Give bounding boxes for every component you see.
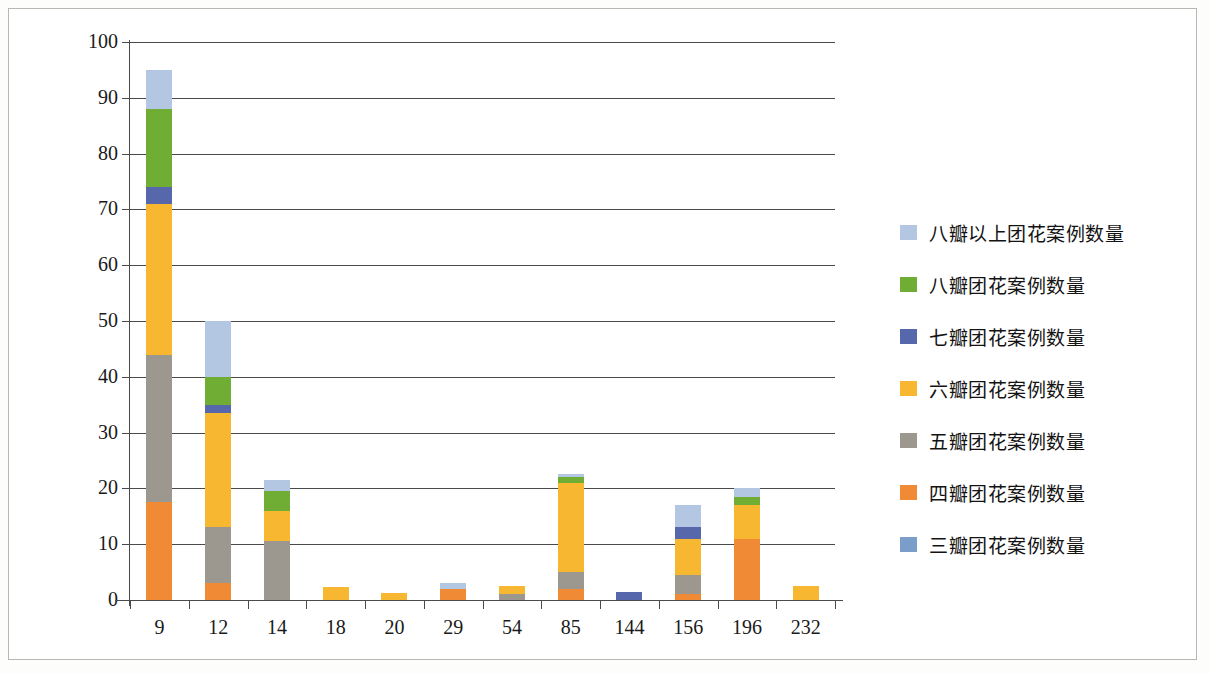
legend-item[interactable]: 四瓣团花案例数量	[900, 466, 1180, 518]
stacked-bar[interactable]	[793, 586, 819, 600]
y-axis-tick-label: 100	[58, 31, 118, 51]
bar-segment	[323, 587, 349, 600]
bar-segment	[146, 70, 172, 109]
stacked-bar[interactable]	[264, 480, 290, 600]
bar-segment	[675, 575, 701, 595]
bar-segment	[146, 355, 172, 503]
bar-segment	[734, 488, 760, 496]
x-axis-tick	[776, 600, 777, 609]
legend-item[interactable]: 六瓣团花案例数量	[900, 362, 1180, 414]
bar-segment	[264, 491, 290, 511]
stacked-bar[interactable]	[734, 488, 760, 600]
legend-swatch-icon	[900, 433, 917, 448]
bar-segment	[558, 589, 584, 600]
bar-segment	[264, 541, 290, 600]
bar-segment	[440, 589, 466, 600]
stacked-bar[interactable]	[381, 593, 407, 600]
x-axis-tick-label: 9	[130, 617, 189, 637]
x-axis-tick-label: 156	[659, 617, 718, 637]
stacked-bar[interactable]	[146, 70, 172, 600]
bar-segment	[146, 502, 172, 600]
chart-legend: 八瓣以上团花案例数量八瓣团花案例数量七瓣团花案例数量六瓣团花案例数量五瓣团花案例…	[900, 206, 1180, 570]
legend-item[interactable]: 七瓣团花案例数量	[900, 310, 1180, 362]
bar-group	[659, 42, 718, 600]
bar-group	[248, 42, 307, 600]
y-axis-tick-label: 90	[58, 87, 118, 107]
y-axis-tick	[122, 433, 130, 434]
bar-segment	[793, 586, 819, 600]
legend-item[interactable]: 八瓣团花案例数量	[900, 258, 1180, 310]
chart-page: 0102030405060708090100 91214182029548514…	[0, 0, 1209, 674]
bar-segment	[675, 527, 701, 538]
bar-segment	[558, 572, 584, 589]
x-axis-tick	[130, 600, 131, 609]
bar-segment	[205, 405, 231, 413]
stacked-bar[interactable]	[205, 321, 231, 600]
y-axis-tick	[122, 42, 130, 43]
x-axis-tick	[248, 600, 249, 609]
x-axis-tick	[365, 600, 366, 609]
y-axis-tick-label: 80	[58, 143, 118, 163]
bar-group	[718, 42, 777, 600]
x-axis-tick	[424, 600, 425, 609]
y-axis-tick	[122, 377, 130, 378]
legend-label: 七瓣团花案例数量	[929, 323, 1085, 350]
bar-group	[365, 42, 424, 600]
stacked-bar[interactable]	[499, 586, 525, 600]
legend-label: 六瓣团花案例数量	[929, 375, 1085, 402]
bar-segment	[616, 592, 642, 600]
stacked-bar[interactable]	[675, 505, 701, 600]
y-axis-tick-label: 40	[58, 366, 118, 386]
x-axis-tick	[659, 600, 660, 609]
y-axis-tick	[122, 265, 130, 266]
y-axis-tick-label: 20	[58, 477, 118, 497]
bar-group	[189, 42, 248, 600]
x-axis-tick-label: 14	[248, 617, 307, 637]
x-axis-tick-label: 232	[776, 617, 835, 637]
x-axis-tick	[835, 600, 836, 609]
y-axis-tick	[122, 154, 130, 155]
bar-segment	[146, 204, 172, 355]
bar-segment	[675, 539, 701, 575]
legend-swatch-icon	[900, 225, 917, 240]
x-axis-tick	[541, 600, 542, 609]
bar-segment	[146, 187, 172, 204]
y-axis-tick	[122, 544, 130, 545]
bar-group	[306, 42, 365, 600]
legend-item[interactable]: 八瓣以上团花案例数量	[900, 206, 1180, 258]
plot-area	[130, 42, 835, 600]
x-axis-tick-label: 144	[600, 617, 659, 637]
x-axis-tick	[483, 600, 484, 609]
y-axis-tick	[122, 98, 130, 99]
bar-segment	[205, 583, 231, 600]
legend-label: 八瓣以上团花案例数量	[929, 219, 1124, 246]
bar-segment	[499, 586, 525, 594]
y-axis-tick-label: 0	[58, 589, 118, 609]
legend-label: 五瓣团花案例数量	[929, 427, 1085, 454]
bar-segment	[381, 593, 407, 600]
legend-item[interactable]: 三瓣团花案例数量	[900, 518, 1180, 570]
bar-segment	[146, 109, 172, 187]
y-axis-tick	[122, 321, 130, 322]
stacked-bar[interactable]	[616, 592, 642, 600]
bar-segment	[205, 377, 231, 405]
legend-label: 四瓣团花案例数量	[929, 479, 1085, 506]
legend-swatch-icon	[900, 537, 917, 552]
bar-segment	[734, 539, 760, 600]
bar-group	[541, 42, 600, 600]
y-axis-tick-label: 70	[58, 198, 118, 218]
stacked-bar[interactable]	[323, 587, 349, 600]
x-axis-line	[115, 600, 843, 601]
y-axis-tick-label: 30	[58, 422, 118, 442]
legend-label: 三瓣团花案例数量	[929, 531, 1085, 558]
stacked-bar[interactable]	[440, 583, 466, 600]
legend-label: 八瓣团花案例数量	[929, 271, 1085, 298]
x-axis-tick-label: 85	[541, 617, 600, 637]
x-axis-tick-label: 196	[718, 617, 777, 637]
y-axis-tick	[122, 209, 130, 210]
y-axis-labels: 0102030405060708090100	[50, 0, 118, 674]
legend-swatch-icon	[900, 329, 917, 344]
bar-group	[600, 42, 659, 600]
legend-item[interactable]: 五瓣团花案例数量	[900, 414, 1180, 466]
stacked-bar[interactable]	[558, 474, 584, 600]
